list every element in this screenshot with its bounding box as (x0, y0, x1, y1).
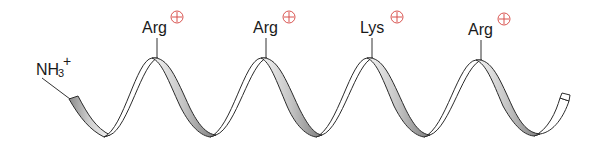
residue-label: Arg (253, 20, 278, 36)
n-terminus-label: NH3+ (36, 62, 64, 79)
plus-circle-icon (391, 11, 403, 23)
residue-label: Lys (360, 20, 384, 36)
n-terminus-leader (42, 78, 70, 99)
plus-circle-icon (171, 11, 183, 23)
residue-label: Arg (142, 20, 167, 36)
plus-circle-icon (498, 13, 510, 25)
plus-circle-icon (283, 11, 295, 23)
charge-icons (171, 11, 510, 25)
residue-leaders (157, 38, 481, 60)
residue-label: Arg (468, 22, 493, 38)
helix-ribbon (0, 0, 601, 161)
helix-diagram: NH3+ Arg Arg Lys Arg (0, 0, 601, 161)
